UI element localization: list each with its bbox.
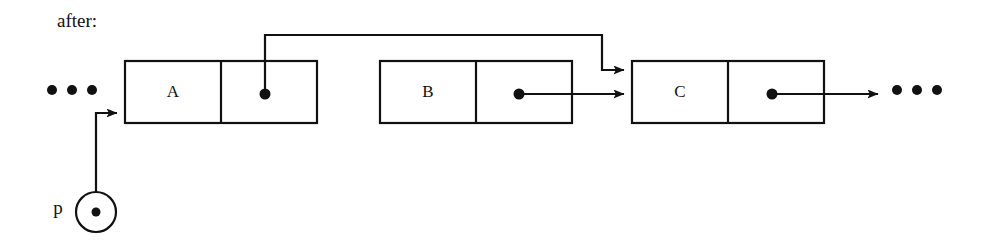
ellipsis-right [892, 85, 942, 95]
node-c: C [632, 61, 824, 123]
ellipsis-right-dot-2 [912, 85, 922, 95]
p-pointer-dot [92, 208, 101, 217]
node-a: A [125, 61, 317, 123]
ellipsis-left [47, 85, 97, 95]
pointer-variable-p: p [53, 192, 116, 232]
ellipsis-right-dot-3 [932, 85, 942, 95]
caption-after-label: after: [57, 10, 97, 31]
ellipsis-left-dot-1 [47, 85, 57, 95]
node-b: B [380, 61, 572, 123]
linked-list-svg-canvas: after: A B C [0, 0, 996, 252]
node-a-label: A [167, 82, 180, 101]
p-variable-label: p [53, 197, 63, 218]
node-c-label: C [674, 82, 685, 101]
node-b-label: B [422, 82, 433, 101]
link-p-to-a [96, 113, 117, 192]
ellipsis-left-dot-3 [87, 85, 97, 95]
ellipsis-left-dot-2 [67, 85, 77, 95]
ellipsis-right-dot-1 [892, 85, 902, 95]
linked-list-diagram: after: A B C [0, 0, 996, 252]
